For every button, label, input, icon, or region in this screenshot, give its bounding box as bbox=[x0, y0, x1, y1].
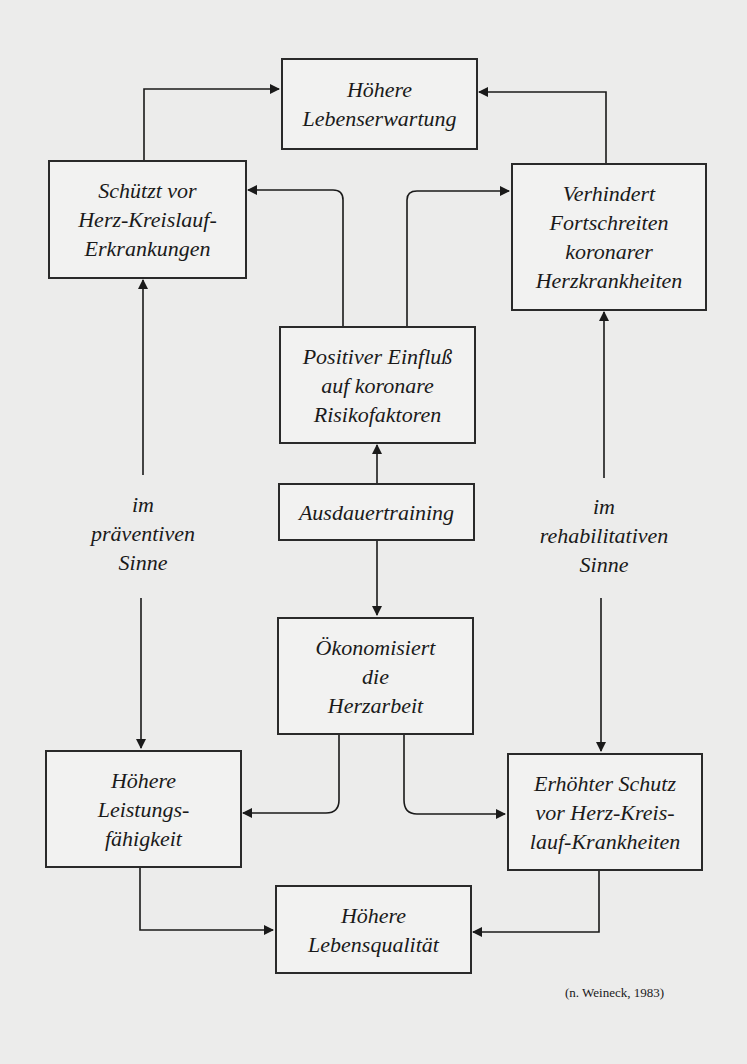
box-erhoehter-schutz: Erhöhter Schutz vor Herz-Kreis- lauf-Kra… bbox=[507, 753, 703, 871]
box-line: Erkrankungen bbox=[85, 234, 211, 263]
box-line: Risikofaktoren bbox=[314, 400, 442, 429]
box-line: Positiver Einfluß bbox=[303, 342, 453, 371]
box-line: Verhindert bbox=[563, 179, 655, 208]
box-line: Herz-Kreislauf- bbox=[78, 205, 217, 234]
label-rehabilitativ: im rehabilitativen Sinne bbox=[524, 492, 684, 579]
label-praeventiv: im präventiven Sinne bbox=[70, 490, 216, 577]
box-line: Ökonomisiert bbox=[316, 633, 436, 662]
box-line: Höhere bbox=[341, 901, 406, 930]
box-line: Erhöhter Schutz bbox=[534, 769, 676, 798]
box-line: Höhere bbox=[111, 766, 176, 795]
box-line: vor Herz-Kreis- bbox=[535, 798, 674, 827]
label-line: Sinne bbox=[70, 548, 216, 577]
box-hoehere-lebenserwartung: Höhere Lebenserwartung bbox=[281, 58, 478, 150]
box-line: Lebensqualität bbox=[308, 930, 439, 959]
box-line: die bbox=[362, 662, 389, 691]
box-line: Leistungs- bbox=[98, 795, 190, 824]
label-line: im bbox=[524, 492, 684, 521]
box-line: auf koronare bbox=[321, 371, 434, 400]
box-positiver-einfluss: Positiver Einfluß auf koronare Risikofak… bbox=[279, 326, 476, 444]
box-line: koronarer bbox=[565, 237, 653, 266]
box-line: Herzkrankheiten bbox=[536, 266, 683, 295]
box-line: Ausdauertraining bbox=[299, 498, 454, 527]
box-hoehere-lebensqualitaet: Höhere Lebensqualität bbox=[275, 885, 472, 974]
label-line: rehabilitativen bbox=[524, 521, 684, 550]
box-line: Lebenserwartung bbox=[303, 104, 457, 133]
box-line: Fortschreiten bbox=[550, 208, 669, 237]
box-line: fähigkeit bbox=[105, 824, 182, 853]
label-line: im bbox=[70, 490, 216, 519]
box-hoehere-leistungsfaehigkeit: Höhere Leistungs- fähigkeit bbox=[45, 750, 242, 868]
box-line: lauf-Krankheiten bbox=[530, 827, 680, 856]
box-schuetzt-vor-herz-kreislauf: Schützt vor Herz-Kreislauf- Erkrankungen bbox=[48, 160, 247, 279]
box-line: Schützt vor bbox=[98, 176, 196, 205]
box-ausdauertraining: Ausdauertraining bbox=[278, 483, 475, 541]
label-line: präventiven bbox=[70, 519, 216, 548]
label-line: Sinne bbox=[524, 550, 684, 579]
box-line: Höhere bbox=[347, 75, 412, 104]
box-verhindert-fortschreiten: Verhindert Fortschreiten koronarer Herzk… bbox=[511, 163, 707, 311]
box-line: Herzarbeit bbox=[328, 691, 423, 720]
citation: (n. Weineck, 1983) bbox=[565, 985, 664, 1001]
box-oekonomisiert-herzarbeit: Ökonomisiert die Herzarbeit bbox=[277, 617, 474, 735]
